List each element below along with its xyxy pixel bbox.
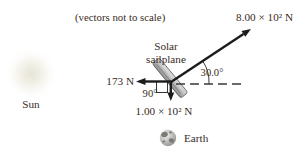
earth-label: Earth	[184, 132, 209, 144]
sailplane-label-line2: sailplane	[146, 53, 186, 65]
physics-figure: (vectors not to scale) 8.00 × 10² N Sola…	[0, 0, 295, 154]
right-angle-marker	[157, 82, 168, 93]
left-force-label: 173 N	[106, 75, 134, 87]
solar-sailplane-diagram: (vectors not to scale) 8.00 × 10² N Sola…	[0, 0, 295, 154]
sun-label: Sun	[22, 98, 40, 110]
angle-90-label: 90°	[143, 88, 158, 99]
earth-icon	[160, 130, 176, 146]
angle-30-label: 30.0°	[201, 67, 224, 78]
vectors-note: (vectors not to scale)	[75, 11, 166, 24]
sailplane-label-line1: Solar	[154, 40, 178, 52]
down-force-label: 1.00 × 10² N	[136, 105, 193, 117]
sun-glow	[4, 47, 58, 101]
thrust-force-label: 8.00 × 10² N	[236, 11, 293, 23]
